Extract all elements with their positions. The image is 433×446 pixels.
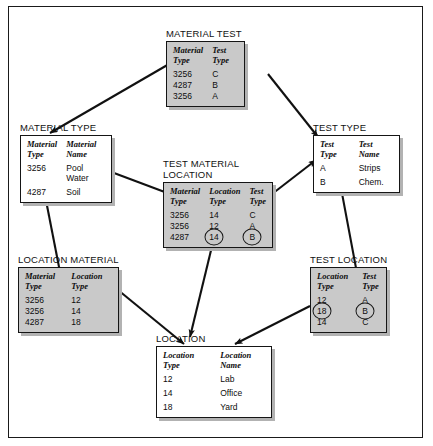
cell: C — [212, 65, 238, 79]
table-header-row: Test Type Test Name — [320, 140, 393, 159]
table-title-test-material-location: TEST MATERIAL LOCATION — [163, 158, 273, 180]
table-row[interactable]: 4287 18 — [25, 316, 102, 327]
table-row[interactable]: 3256 14 — [25, 305, 102, 316]
cell: 3256 — [25, 305, 71, 316]
cell: 3256 — [25, 291, 71, 305]
table-body-location: Location Type Location Name 12 Lab 14 Of… — [156, 346, 272, 418]
column-header: Location Name — [220, 351, 265, 370]
table-row[interactable]: 14 Office — [163, 384, 265, 398]
table-header-row: Material Type Test Type — [173, 46, 238, 65]
column-header: Material Type — [27, 140, 66, 159]
table-row[interactable]: 4287 14 B — [170, 231, 266, 242]
cell: 18 — [71, 316, 102, 327]
table-location-material[interactable]: LOCATION MATERIAL Material Type Location… — [18, 254, 119, 333]
column-header: Test Name — [359, 140, 393, 159]
table-header-row: Material Type Location Type — [25, 272, 102, 291]
table-row[interactable]: 3256 14 C — [170, 206, 266, 220]
table-row[interactable]: 4287 B — [173, 79, 238, 90]
highlight-circle: 18 — [317, 306, 326, 316]
cell: 12 — [71, 291, 102, 305]
table-row[interactable]: 12 Lab — [163, 370, 265, 384]
table-row[interactable]: 3256 12 — [25, 291, 102, 305]
highlight-circle: B — [362, 306, 368, 316]
column-header: Location Type — [209, 187, 249, 206]
table-test-location[interactable]: TEST LOCATION Location Type Test Type 12… — [310, 254, 387, 333]
table-body-material-test: Material Type Test Type 3256 C 4287 B 32… — [166, 41, 245, 107]
cell: 14 — [209, 206, 249, 220]
table-title-material-type: MATERIAL TYPE — [20, 122, 112, 133]
cell: Pool Water — [66, 159, 105, 183]
table-row[interactable]: 3256 A — [173, 90, 238, 101]
cell: Office — [220, 384, 265, 398]
highlight-circle: 14 — [209, 232, 218, 242]
table-title-location-material: LOCATION MATERIAL — [18, 254, 119, 265]
table-body-material-type: Material Type Material Name 3256 Pool Wa… — [20, 135, 112, 203]
table-row[interactable]: A Strips — [320, 159, 393, 173]
cell: A — [212, 90, 238, 101]
table-body-test-type: Test Type Test Name A Strips B Chem. — [313, 135, 400, 193]
cell: A — [320, 159, 359, 173]
table-test-material-location[interactable]: TEST MATERIAL LOCATION Material Type Loc… — [163, 158, 273, 248]
cell: 4287 — [27, 183, 66, 197]
cell-highlighted: B — [362, 305, 379, 316]
cell: 4287 — [170, 231, 209, 242]
column-header: Test Type — [249, 187, 266, 206]
cell: 14 — [71, 305, 102, 316]
column-header: Material Type — [170, 187, 209, 206]
table-row[interactable]: 4287 Soil — [27, 183, 105, 197]
diagram-canvas: MATERIAL TEST Material Type Test Type 32… — [0, 0, 433, 446]
table-row[interactable]: 3256 C — [173, 65, 238, 79]
table-material-type[interactable]: MATERIAL TYPE Material Type Material Nam… — [20, 122, 112, 203]
cell: Strips — [359, 159, 393, 173]
table-row[interactable]: B Chem. — [320, 173, 393, 187]
cell: B — [212, 79, 238, 90]
column-header: Location Type — [317, 272, 362, 291]
cell: 4287 — [25, 316, 71, 327]
column-header: Test Type — [362, 272, 379, 291]
table-body-location-material: Material Type Location Type 3256 12 3256… — [18, 267, 119, 333]
cell-highlighted: B — [249, 231, 266, 242]
column-header: Test Type — [212, 46, 238, 65]
table-body-test-material-location: Material Type Location Type Test Type 32… — [163, 182, 273, 248]
table-title-test-location: TEST LOCATION — [310, 254, 387, 265]
table-test-type[interactable]: TEST TYPE Test Type Test Name A Strips B… — [313, 122, 400, 193]
highlight-circle: B — [249, 232, 255, 242]
table-location[interactable]: LOCATION Location Type Location Name 12 … — [156, 333, 272, 418]
cell: 3256 — [173, 90, 212, 101]
cell: Soil — [66, 183, 105, 197]
cell: 14 — [163, 384, 220, 398]
cell: 4287 — [173, 79, 212, 90]
table-title-location: LOCATION — [156, 333, 272, 344]
column-header: Location Type — [71, 272, 102, 291]
cell: C — [249, 206, 266, 220]
column-header: Test Type — [320, 140, 359, 159]
cell: 3256 — [170, 206, 209, 220]
table-header-row: Material Type Material Name — [27, 140, 105, 159]
table-header-row: Location Type Location Name — [163, 351, 265, 370]
table-header-row: Material Type Location Type Test Type — [170, 187, 266, 206]
table-material-test[interactable]: MATERIAL TEST Material Type Test Type 32… — [166, 28, 245, 107]
cell: Chem. — [359, 173, 393, 187]
table-row[interactable]: 18 B — [317, 305, 379, 316]
cell: 18 — [163, 398, 220, 412]
table-body-test-location: Location Type Test Type 12 A 18 B 14 C — [310, 267, 387, 333]
table-title-test-type: TEST TYPE — [313, 122, 400, 133]
cell: B — [320, 173, 359, 187]
table-header-row: Location Type Test Type — [317, 272, 379, 291]
column-header: Location Type — [163, 351, 220, 370]
cell: 3256 — [27, 159, 66, 183]
column-header: Material Type — [173, 46, 212, 65]
cell: 3256 — [173, 65, 212, 79]
table-row[interactable]: 3256 Pool Water — [27, 159, 105, 183]
cell: 12 — [163, 370, 220, 384]
column-header: Material Type — [25, 272, 71, 291]
table-row[interactable]: 18 Yard — [163, 398, 265, 412]
cell: Yard — [220, 398, 265, 412]
table-title-material-test: MATERIAL TEST — [166, 28, 245, 39]
column-header: Material Name — [66, 140, 105, 159]
cell: 3256 — [170, 220, 209, 231]
cell: Lab — [220, 370, 265, 384]
